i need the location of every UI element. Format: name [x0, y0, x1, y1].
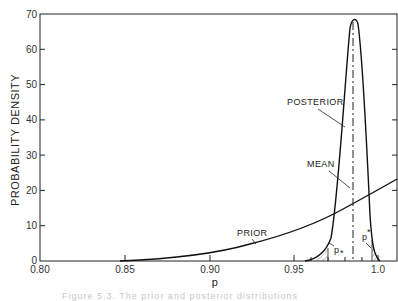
y-tick-label: 40 [26, 114, 38, 125]
prior-curve [120, 179, 397, 261]
x-tick-label: 0.95 [284, 264, 304, 275]
plot-frame [40, 14, 397, 261]
y-tick-labels: 0 10 20 30 40 50 60 70 [26, 9, 38, 266]
prior-label: PRIOR [237, 228, 268, 238]
posterior-curve [305, 19, 380, 261]
x-axis-title: p [212, 276, 219, 288]
x-tick-label: 0.80 [30, 264, 50, 275]
x-tick-label: 1.0 [371, 264, 385, 275]
x-tick-label: 0.85 [115, 264, 135, 275]
y-tick-label: 60 [26, 44, 38, 55]
y-axis-title: PROBABILITY DENSITY [9, 74, 21, 206]
y-tick-label: 10 [26, 220, 38, 231]
posterior-label: POSTERIOR [287, 97, 344, 107]
x-tick-label: 0.90 [200, 264, 220, 275]
y-tick-label: 50 [26, 79, 38, 90]
y-tick-label: 30 [26, 150, 38, 161]
p-lower-label: p [334, 245, 339, 255]
y-tick-label: 70 [26, 9, 38, 20]
figure-caption: Figure 5.3. The prior and posterior dist… [62, 291, 298, 301]
y-axis [40, 49, 397, 225]
y-tick-label: 20 [26, 185, 38, 196]
mean-label: MEAN [307, 159, 335, 169]
p-lower-subscript: * [340, 248, 344, 258]
p-upper-superscript: * [367, 227, 371, 237]
x-tick-labels: 0.80 0.85 0.90 0.95 1.0 [30, 264, 385, 275]
